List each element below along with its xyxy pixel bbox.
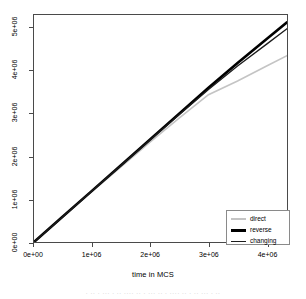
chart-legend: direct reverse changing [226,210,290,245]
plot-area [33,14,288,243]
legend-swatch-changing [231,241,246,242]
y-tick [29,157,33,158]
y-tick [29,113,33,114]
legend-swatch-direct [231,218,246,220]
scan-artifact-text: · ·· · ··· · ·· ···· ·· · ··· ·· · ···· … [0,288,306,299]
x-axis-title: time in MCS [0,270,306,279]
x-tick [33,243,34,247]
y-tick-label: 1e+06 [10,185,19,213]
chart-figure: 0e+001e+062e+063e+064e+060e+001e+062e+06… [0,0,306,299]
y-tick-label: 5e+06 [10,13,19,41]
legend-label-reverse: reverse [250,226,272,234]
y-tick [29,200,33,201]
y-tick-label: 3e+06 [10,99,19,127]
legend-label-direct: direct [250,215,266,223]
y-tick-label: 0e+00 [10,229,19,257]
y-tick [29,27,33,28]
x-tick-label: 1e+06 [69,250,115,259]
y-tick-label: 2e+06 [10,142,19,170]
x-tick-label: 2e+06 [127,250,173,259]
x-tick [92,243,93,247]
x-tick [150,243,151,247]
legend-item-direct: direct [231,214,285,224]
y-tick [29,243,33,244]
legend-item-changing: changing [231,236,285,246]
x-tick [209,243,210,247]
y-tick [29,70,33,71]
legend-swatch-reverse [231,229,246,232]
x-tick-label: 4e+06 [245,250,291,259]
legend-label-changing: changing [250,237,276,245]
legend-item-reverse: reverse [231,225,285,235]
x-tick-label: 3e+06 [186,250,232,259]
series-layer [34,15,287,242]
y-tick-label: 4e+06 [10,56,19,84]
